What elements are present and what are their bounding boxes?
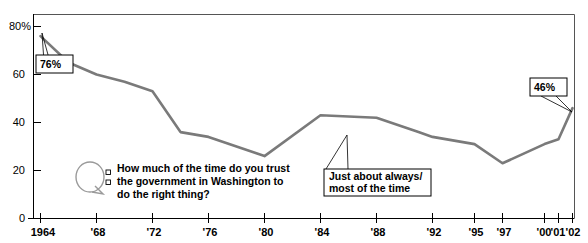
question-speech-bubble-icon xyxy=(76,162,111,194)
chart-container: 0 20 40 60 80% 1964 '68 '72 '76 '80 '84 … xyxy=(0,0,588,243)
x-tick-label-1968: '68 xyxy=(91,226,106,238)
x-tick-label-1995: '95 xyxy=(469,226,484,238)
annotation-leader-left xyxy=(326,135,347,169)
trust-series-line xyxy=(41,36,573,163)
question-line-2: the government in Washington to xyxy=(117,175,283,187)
x-tick-label-1997: '97 xyxy=(497,226,512,238)
x-tick-label-1980: '80 xyxy=(259,226,274,238)
x-tick-label-1988: '88 xyxy=(371,226,386,238)
x-tick-label-1984: '84 xyxy=(315,226,331,238)
callout-label-start: 76% xyxy=(40,58,62,70)
callout-label-end: 46% xyxy=(534,81,556,93)
x-tick-label-2002: '02 xyxy=(566,226,581,238)
x-tick-label-1972: '72 xyxy=(147,226,162,238)
y-tick-label-80: 80% xyxy=(9,20,31,32)
annotation-leader-right xyxy=(347,135,348,169)
trust-in-government-line-chart: 0 20 40 60 80% 1964 '68 '72 '76 '80 '84 … xyxy=(0,0,588,243)
callout-leader-end-2 xyxy=(541,96,572,112)
y-tick-label-0: 0 xyxy=(19,212,25,224)
y-tick-label-40: 40 xyxy=(13,116,25,128)
callout-leader-end xyxy=(556,96,572,112)
x-tick-label-2001: '01 xyxy=(551,226,566,238)
annotation-line-2: most of the time xyxy=(329,182,410,194)
y-tick-label-20: 20 xyxy=(13,164,25,176)
question-line-1: How much of the time do you trust xyxy=(117,162,290,174)
question-line-3: do the right thing? xyxy=(117,188,210,200)
annotation-line-1: Just about always/ xyxy=(329,170,422,182)
y-tick-label-60: 60 xyxy=(13,68,25,80)
x-tick-label-2000: '00 xyxy=(537,226,552,238)
x-tick-label-1976: '76 xyxy=(203,226,218,238)
x-tick-label-1964: 1964 xyxy=(31,226,56,238)
x-tick-label-1992: '92 xyxy=(427,226,442,238)
